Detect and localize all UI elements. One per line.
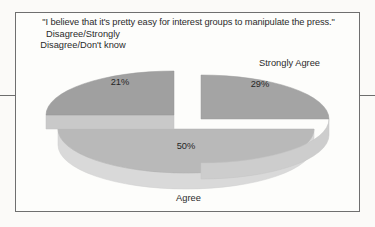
horizontal-rule-left [0,95,16,96]
pie-value-disagree: 21% [111,77,130,87]
horizontal-rule-right [359,95,375,96]
figure-frame: "I believe that it's pretty easy for int… [15,12,360,212]
pie-value-agree: 50% [177,141,196,151]
pie-value-strongly-agree: 29% [251,79,270,89]
pie-chart: 21% 29% 50% [16,13,360,212]
pie-slice-disagree-side [46,115,174,129]
pie-slice-strongly-agree [201,75,329,179]
